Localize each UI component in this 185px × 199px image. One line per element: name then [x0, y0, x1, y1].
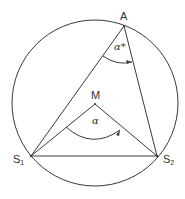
- inscribed-angle-diagram: A M S1 S2 α* α: [0, 0, 185, 199]
- vertex-dot-s1: [30, 155, 32, 157]
- label-a: A: [120, 10, 128, 22]
- segment-a-s1: [31, 26, 124, 156]
- arrowhead-icon: [126, 60, 132, 64]
- vertex-dot-a: [123, 25, 125, 27]
- label-s2: S2: [163, 153, 174, 166]
- central-angle-arc: [66, 127, 120, 139]
- vertex-dot-s2: [156, 155, 158, 157]
- label-s1: S1: [13, 153, 24, 166]
- radius-m-s2: [95, 104, 157, 156]
- vertex-dot-m: [94, 103, 96, 105]
- label-inscribed-angle: α*: [114, 41, 126, 52]
- segment-a-s2: [124, 26, 157, 156]
- label-m: M: [91, 89, 100, 101]
- label-central-angle: α: [92, 115, 99, 126]
